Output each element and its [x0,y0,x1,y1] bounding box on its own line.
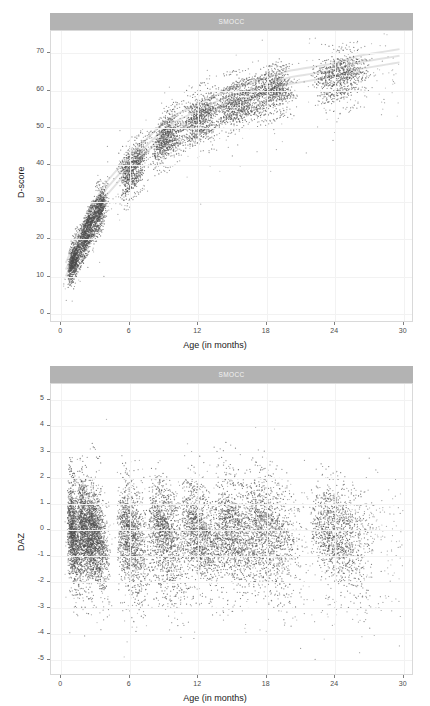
gridline-horizontal [51,202,412,203]
gridline-horizontal [51,426,412,427]
x-tick-mark [403,322,404,325]
scatter-svg-dscore [51,31,412,321]
gridline-vertical [130,31,131,321]
panel-strip-dscore: SMOCC [50,13,413,30]
y-tick-mark [47,201,50,202]
x-axis-title-dscore: Age (in months) [0,340,430,350]
y-tick-label: -3 [14,602,44,609]
y-tick-label: 60 [14,85,44,92]
x-tick-mark [129,322,130,325]
scatter-layer-daz [51,384,412,674]
y-tick-mark [47,276,50,277]
panel-strip-daz: SMOCC [50,366,413,383]
x-tick-label: 0 [40,327,80,334]
y-tick-label: 10 [14,271,44,278]
y-tick-mark [47,313,50,314]
y-tick-mark [47,555,50,556]
y-tick-mark [47,659,50,660]
gridline-horizontal [51,556,412,557]
gridline-horizontal [51,239,412,240]
y-tick-mark [47,503,50,504]
x-tick-mark [334,322,335,325]
x-tick-label: 24 [314,327,354,334]
y-tick-label: 30 [14,196,44,203]
gridline-horizontal [51,478,412,479]
gridline-horizontal [51,128,412,129]
x-tick-label: 18 [246,680,286,687]
gridline-horizontal [51,452,412,453]
x-tick-mark [403,675,404,678]
gridline-vertical [130,384,131,674]
y-tick-label: 3 [14,446,44,453]
y-tick-mark [47,425,50,426]
y-tick-mark [47,90,50,91]
y-tick-label: 1 [14,498,44,505]
gridline-horizontal [51,91,412,92]
y-tick-mark [47,581,50,582]
x-tick-mark [129,675,130,678]
panel-daz: SMOCC DAZ Age (in months) 0612182430-5-4… [0,353,430,706]
y-tick-mark [47,52,50,53]
y-tick-label: -5 [14,654,44,661]
y-tick-label: 20 [14,233,44,240]
gridline-vertical [267,31,268,321]
scatter-svg-daz [51,384,412,674]
gridline-vertical [61,384,62,674]
x-tick-mark [197,675,198,678]
x-tick-mark [266,675,267,678]
x-tick-mark [60,675,61,678]
y-tick-label: -4 [14,628,44,635]
y-tick-mark [47,477,50,478]
panel-dscore: SMOCC D-score Age (in months) 0612182430… [0,0,430,353]
y-tick-label: 2 [14,472,44,479]
plot-area-dscore [50,30,413,322]
scatter-layer-dscore [51,31,412,321]
gridline-vertical [267,384,268,674]
y-tick-mark [47,607,50,608]
y-tick-label: 0 [14,524,44,531]
strip-label-dscore: SMOCC [218,18,244,25]
x-tick-label: 30 [383,327,423,334]
x-tick-label: 18 [246,327,286,334]
gridline-horizontal [51,660,412,661]
y-tick-mark [47,238,50,239]
x-tick-label: 6 [109,680,149,687]
plot-area-daz [50,383,413,675]
y-tick-label: 50 [14,122,44,129]
gridline-horizontal [51,608,412,609]
x-tick-mark [60,322,61,325]
gridline-vertical [198,384,199,674]
y-tick-label: 5 [14,394,44,401]
y-axis-title-daz: DAZ [16,533,26,551]
y-tick-mark [47,529,50,530]
x-tick-label: 0 [40,680,80,687]
y-tick-label: 4 [14,420,44,427]
y-tick-mark [47,451,50,452]
gridline-vertical [335,384,336,674]
y-tick-mark [47,164,50,165]
gridline-vertical [198,31,199,321]
y-tick-label: 70 [14,47,44,54]
gridline-horizontal [51,165,412,166]
gridline-vertical [61,31,62,321]
gridline-vertical [404,384,405,674]
gridline-horizontal [51,277,412,278]
y-tick-label: 40 [14,159,44,166]
gridline-vertical [335,31,336,321]
y-tick-label: 0 [14,308,44,315]
x-axis-title-daz: Age (in months) [0,693,430,703]
figure-smocc-dscore-daz: SMOCC D-score Age (in months) 0612182430… [0,0,430,706]
y-tick-mark [47,127,50,128]
gridline-horizontal [51,634,412,635]
gridline-horizontal [51,582,412,583]
gridline-horizontal [51,530,412,531]
x-tick-mark [266,322,267,325]
x-tick-label: 6 [109,327,149,334]
y-tick-label: -2 [14,576,44,583]
y-axis-title-dscore: D-score [16,166,26,198]
strip-label-daz: SMOCC [218,371,244,378]
y-tick-mark [47,633,50,634]
y-tick-mark [47,399,50,400]
gridline-horizontal [51,53,412,54]
gridline-horizontal [51,504,412,505]
